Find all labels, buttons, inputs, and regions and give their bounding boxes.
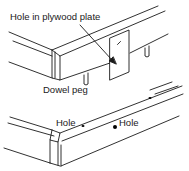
dowel-peg-right: [145, 46, 149, 57]
diagram-drawing: [0, 0, 189, 171]
label-plate-hole: Hole in plywood plate: [10, 12, 100, 22]
bottom-frame: [4, 86, 183, 166]
label-dowel-peg: Dowel peg: [43, 85, 88, 95]
label-hole-right: Hole: [119, 118, 139, 128]
plywood-plate: [110, 30, 129, 80]
hole-small-left-icon: [82, 125, 85, 127]
plate-hole-icon: [116, 64, 121, 69]
label-hole-left: Hole: [56, 118, 76, 128]
hole-round-icon: [113, 125, 117, 129]
hole-small-right-icon: [149, 97, 152, 99]
frame-joint-diagram: Hole in plywood plate Dowel peg Hole Hol…: [0, 0, 189, 171]
